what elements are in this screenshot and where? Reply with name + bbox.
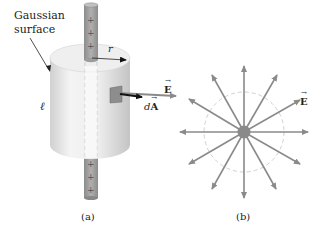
length-label: ℓ <box>40 100 45 113</box>
area-vector-label: dA <box>144 101 158 112</box>
rod-bottom-charges: + + + <box>87 158 95 197</box>
rod-top-charges: + + + <box>87 14 95 53</box>
radius-label: r <box>108 43 113 54</box>
line-charge-cross-section <box>238 126 251 139</box>
field-label-a: E <box>164 78 172 97</box>
field-label-b: E <box>300 90 308 109</box>
gaussian-pointer <box>30 38 49 70</box>
caption-a: (a) <box>81 211 95 222</box>
gaussian-surface-label: Gaussian surface <box>14 9 65 37</box>
caption-b: (b) <box>236 211 250 222</box>
